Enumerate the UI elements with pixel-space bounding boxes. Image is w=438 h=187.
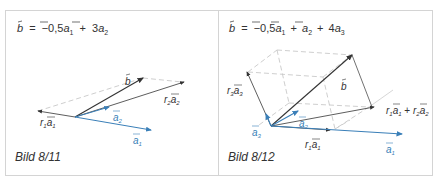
svg-text:r1a1 + r2a2: r1a1 + r2a2 bbox=[386, 105, 429, 117]
svg-text:r1a1: r1a1 bbox=[40, 117, 56, 129]
caption-right: Bild 8/12 bbox=[228, 150, 275, 164]
edge-b-to-sum bbox=[352, 55, 372, 107]
figure-panel-8-11: b = −0,5a1 + 3a2 b r2a2 a2 r1a1 a1 Bild … bbox=[5, 10, 218, 176]
svg-text:a1: a1 bbox=[386, 144, 395, 156]
svg-text:b: b bbox=[125, 76, 131, 87]
vector-a3 bbox=[266, 114, 271, 126]
figure-panel-8-12: b = −0,5a1 + a2 + 4a3 bbox=[219, 10, 433, 176]
svg-text:b: b bbox=[341, 81, 347, 92]
formula-right: b = −0,5a1 + a2 + 4a3 bbox=[229, 22, 345, 37]
svg-text:r2a2: r2a2 bbox=[164, 94, 180, 106]
vector-a1 bbox=[271, 126, 402, 134]
caption-left: Bild 8/11 bbox=[15, 150, 61, 164]
svg-text:a2: a2 bbox=[299, 118, 309, 130]
vector-r1a1-plus-r2a2 bbox=[271, 107, 374, 126]
svg-text:a1: a1 bbox=[133, 135, 142, 147]
vector-a2 bbox=[75, 107, 109, 117]
vector-b bbox=[75, 78, 143, 117]
svg-text:a2: a2 bbox=[113, 112, 123, 124]
formula-left: b = −0,5a1 + 3a2 bbox=[17, 22, 108, 37]
vector-r1a1 bbox=[38, 111, 75, 117]
svg-text:a3: a3 bbox=[252, 127, 262, 139]
svg-text:r1a1: r1a1 bbox=[305, 139, 321, 151]
svg-text:r3a3: r3a3 bbox=[227, 85, 243, 97]
vector-b bbox=[271, 55, 352, 126]
